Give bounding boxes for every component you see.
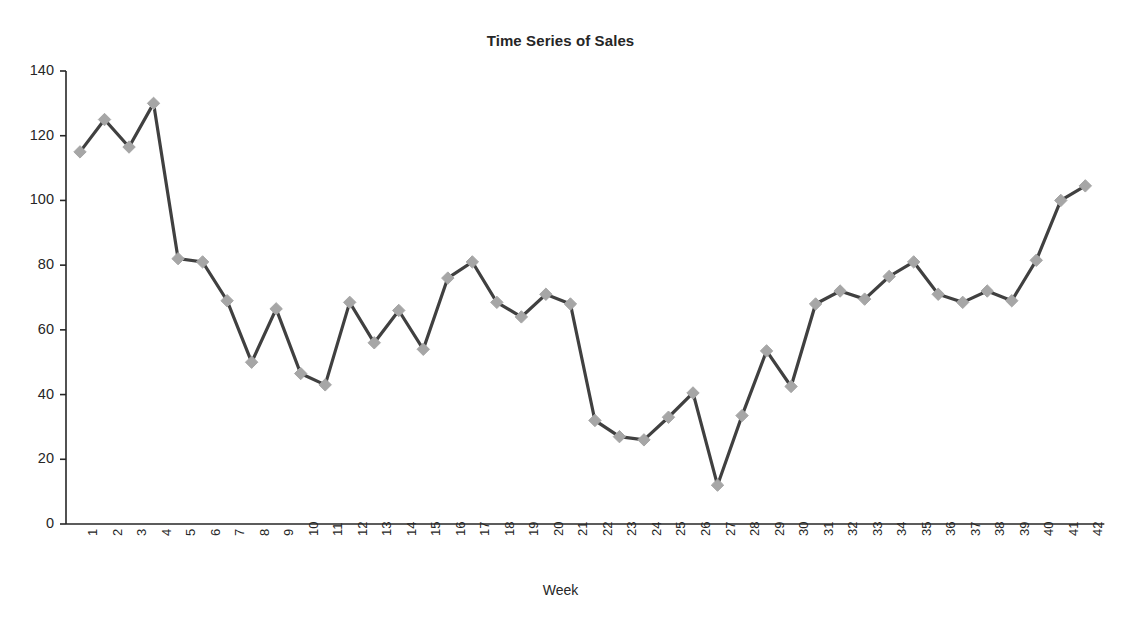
x-axis-tick-label: 39 [1018,522,1031,536]
x-axis-tick-label: 16 [454,522,467,536]
y-axis-tick-label: 0 [14,516,54,531]
x-axis-tick-label: 3 [135,529,148,536]
y-axis-tick-label: 140 [14,63,54,78]
chart-series-sales [74,97,1092,491]
x-axis-tick-label: 25 [674,522,687,536]
x-axis-tick-label: 17 [478,522,491,536]
x-axis-tick-label: 5 [184,529,197,536]
x-axis-tick-label: 11 [331,523,344,537]
x-axis-tick-label: 41 [1067,522,1080,536]
x-axis-tick-label: 15 [429,522,442,536]
y-axis-tick-label: 40 [14,387,54,402]
x-axis-tick-label: 38 [993,522,1006,536]
y-axis-tick-label: 80 [14,257,54,272]
x-axis-tick-label: 9 [282,529,295,536]
x-axis-tick-label: 21 [576,522,589,536]
x-axis-tick-label: 36 [944,522,957,536]
x-axis-tick-label: 31 [822,522,835,536]
x-axis-tick-label: 7 [233,529,246,536]
y-axis-tick-label: 120 [14,128,54,143]
chart-container: Time Series of Sales 020406080100120140 … [0,0,1121,629]
x-axis-tick-label: 20 [552,522,565,536]
x-axis-tick-label: 1 [86,529,99,536]
x-axis-tick-label: 8 [258,529,271,536]
x-axis-tick-label: 19 [527,522,540,536]
x-axis-tick-label: 2 [111,529,124,536]
y-axis-tick-label: 20 [14,451,54,466]
x-axis-tick-label: 34 [895,522,908,536]
x-axis-tick-label: 40 [1042,522,1055,536]
x-axis-tick-label: 32 [846,522,859,536]
x-axis-tick-label: 33 [871,522,884,536]
x-axis-tick-label: 27 [724,522,737,536]
x-axis-tick-label: 12 [356,522,369,536]
x-axis-tick-label: 26 [699,522,712,536]
x-axis-tick-label: 28 [748,522,761,536]
x-axis-tick-label: 37 [969,522,982,536]
y-axis-tick-label: 60 [14,322,54,337]
x-axis-tick-label: 22 [601,522,614,536]
x-axis-tick-label: 10 [307,522,320,536]
x-axis-tick-label: 42 [1091,522,1104,536]
x-axis-tick-label: 23 [625,522,638,536]
x-axis-tick-label: 4 [160,529,173,536]
x-axis-tick-label: 13 [380,522,393,536]
x-axis-tick-label: 24 [650,522,663,536]
x-axis-title: Week [0,582,1121,598]
x-axis-tick-label: 30 [797,522,810,536]
y-axis-tick-label: 100 [14,192,54,207]
x-axis-tick-label: 14 [405,522,418,536]
x-axis-tick-label: 6 [209,529,222,536]
x-axis-tick-label: 18 [503,522,516,536]
x-axis-tick-label: 35 [920,522,933,536]
x-axis-tick-label: 29 [773,522,786,536]
